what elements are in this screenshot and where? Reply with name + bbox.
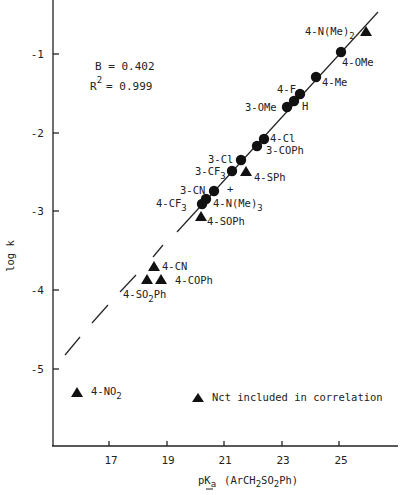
label-plus: + <box>227 183 233 195</box>
label-3-cf3: 3-CF3 <box>195 165 226 181</box>
y-tick-label: -5 <box>31 363 44 376</box>
point-4-so2ph <box>141 274 153 284</box>
label-h: H <box>302 100 308 112</box>
label-4-f: 4-F <box>277 83 296 95</box>
x-title-rest: (ArCH <box>224 474 256 486</box>
y-tick-label: -3 <box>31 205 44 218</box>
label-4-ome: 4-OMe <box>342 56 374 68</box>
y-tick-label: -4 <box>31 284 45 297</box>
label-4-cl: 4-Cl <box>270 132 295 144</box>
label-4-nme2: 4-N(Me)2 <box>305 25 355 41</box>
label-3-ome: 3-OMe <box>245 101 277 113</box>
point-4-sph <box>240 166 252 176</box>
bronsted-plot: -1 -2 -3 -4 -5 17 19 21 23 25 log k pKa(… <box>0 0 403 495</box>
r2-sup: 2 <box>97 75 102 85</box>
label-4-so2ph: 4-SO2Ph <box>123 288 166 304</box>
svg-text:pKa(ArCH2SO2Ph): pKa(ArCH2SO2Ph) <box>198 474 298 489</box>
legend-triangle-icon <box>192 393 204 402</box>
point-4-nme2 <box>360 26 372 36</box>
x-tick-label: 21 <box>218 454 231 467</box>
x-axis-title: pKa(ArCH2SO2Ph) <box>198 474 298 489</box>
point-4-me <box>311 72 321 82</box>
label-3-cl: 3-Cl <box>208 153 233 165</box>
label-4-cn: 4-CN <box>162 260 187 272</box>
dash-segment <box>92 305 108 323</box>
stats-annotation: B = 0.402 R2= 0.999 <box>90 60 155 93</box>
y-axis-title: log k <box>4 240 16 272</box>
point-4-soph <box>195 211 207 221</box>
point-4-coph <box>155 274 167 284</box>
point-4-no2 <box>71 387 83 397</box>
point-3-coph <box>252 141 262 151</box>
x-tick-labels: 17 19 21 23 25 <box>104 454 347 467</box>
legend-label: Nct included in correlation <box>212 391 383 403</box>
x-title-pk: pK <box>198 474 211 486</box>
point-3-cf3 <box>227 166 237 176</box>
x-tick-label: 23 <box>276 454 289 467</box>
label-3-coph: 3-COPh <box>266 144 304 156</box>
x-title-sub-a: a <box>211 479 216 489</box>
label-4-nme3: 4-N(Me)3 <box>213 197 263 213</box>
label-4-me: 4-Me <box>322 76 347 88</box>
label-4-no2: 4-NO2 <box>91 385 122 401</box>
point-4-cn <box>148 261 160 271</box>
x-tick-label: 17 <box>104 454 117 467</box>
y-tick-labels: -1 -2 -3 -4 -5 <box>31 48 45 376</box>
point-3-ome <box>282 102 292 112</box>
label-4-soph: 4-SOPh <box>207 215 245 227</box>
x-title-end: Ph) <box>279 474 298 486</box>
point-4-cf3 <box>197 199 207 209</box>
r2-value: R2= 0.999 <box>90 75 152 93</box>
beta-value: B = 0.402 <box>95 60 155 73</box>
label-4-sph: 4-SPh <box>254 171 286 183</box>
y-tick-label: -1 <box>31 48 44 61</box>
point-3-cn <box>209 186 219 196</box>
point-3-cl <box>236 155 246 165</box>
label-4-coph: 4-COPh <box>175 274 213 286</box>
dash-segment <box>65 337 80 355</box>
label-4-cf3: 4-CF3 <box>156 197 187 213</box>
label-3-cn: 3-CN <box>180 184 205 196</box>
legend: Nct included in correlation <box>192 391 383 403</box>
x-tick-label: 19 <box>161 454 174 467</box>
y-tick-label: -2 <box>31 127 44 140</box>
r2-val: = 0.999 <box>106 80 152 93</box>
dash-segment <box>153 245 163 257</box>
x-tick-label: 25 <box>334 454 347 467</box>
x-title-so: SO <box>261 474 274 486</box>
